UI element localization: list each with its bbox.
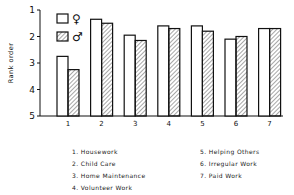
bar-chart: 12345Rank order 1234567 ♀♂ xyxy=(0,0,294,130)
bar-female xyxy=(158,26,169,116)
bar-male xyxy=(236,37,247,117)
y-tick-label: 3 xyxy=(29,58,35,68)
bar-female xyxy=(225,39,236,116)
x-tick-label: 7 xyxy=(267,120,271,128)
bar-female xyxy=(124,35,135,116)
bar-female xyxy=(191,26,202,116)
series-legend: ♀♂ xyxy=(57,12,83,44)
bar-male xyxy=(169,29,180,116)
legend-item: 2. Child Care xyxy=(72,158,146,170)
x-tick-label: 5 xyxy=(200,120,204,128)
legend-item: 1. Housework xyxy=(72,146,146,158)
legend-item: 4. Volunteer Work xyxy=(72,182,146,194)
bar-male xyxy=(202,31,213,116)
legend-item: 6. Irregular Work xyxy=(200,158,259,170)
bar-male xyxy=(102,23,113,116)
female-symbol: ♀ xyxy=(72,12,81,26)
x-tick-label: 2 xyxy=(99,120,103,128)
legend-item: 5. Helping Others xyxy=(200,146,259,158)
y-axis-label: Rank order xyxy=(7,43,15,84)
male-symbol: ♂ xyxy=(72,30,83,44)
category-legend-left: 1. Housework 2. Child Care 3. Home Maint… xyxy=(72,146,146,194)
legend-item: 7. Paid Work xyxy=(200,170,259,182)
x-tick-label: 6 xyxy=(234,120,239,128)
x-tick-label: 1 xyxy=(66,120,70,128)
bar-female xyxy=(91,19,102,116)
bar-female xyxy=(259,29,270,116)
bars: 1234567 xyxy=(57,19,281,128)
x-tick-label: 3 xyxy=(133,120,137,128)
bar-male xyxy=(135,40,146,116)
y-tick-label: 1 xyxy=(29,5,35,15)
category-legend-right: 5. Helping Others 6. Irregular Work 7. P… xyxy=(200,146,259,182)
legend-item: 3. Home Maintenance xyxy=(72,170,146,182)
y-tick-label: 5 xyxy=(29,111,35,121)
bar-male xyxy=(270,29,281,116)
bar-male xyxy=(68,70,79,116)
bar-female xyxy=(57,56,68,116)
x-tick-label: 4 xyxy=(167,120,172,128)
y-tick-label: 4 xyxy=(29,85,35,95)
y-tick-label: 2 xyxy=(29,32,35,42)
